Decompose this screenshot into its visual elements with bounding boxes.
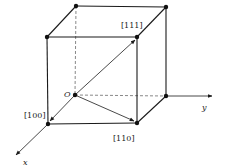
labels: O [111] [100] [110] y x xyxy=(23,21,207,167)
hidden-edge-vertical xyxy=(75,6,76,95)
edge-top-back xyxy=(76,6,166,7)
x-axis xyxy=(16,124,48,155)
direction-vectors xyxy=(50,40,135,121)
vertex-top-front-left xyxy=(45,35,49,39)
edge-top-left xyxy=(47,6,76,37)
label-111: [111] xyxy=(121,21,143,30)
hidden-edge-y xyxy=(75,95,166,96)
label-110: [110] xyxy=(113,134,135,143)
cube-edges xyxy=(47,6,166,124)
vertices xyxy=(45,4,168,126)
y-axis-label: y xyxy=(201,103,207,112)
vector-111 xyxy=(75,40,135,95)
edge-front-left-vertical xyxy=(47,37,48,124)
label-100: [100] xyxy=(24,111,46,120)
origin-label: O xyxy=(64,90,71,99)
vector-110 xyxy=(75,95,134,121)
axes xyxy=(16,96,212,155)
vertex-100 xyxy=(46,122,50,126)
vertex-origin xyxy=(73,93,77,97)
vertex-111 xyxy=(135,35,139,39)
vertex-110 xyxy=(135,121,139,125)
cube-direction-diagram: O [111] [100] [110] y x xyxy=(0,0,225,168)
edge-bottom-right xyxy=(137,96,166,123)
vector-100 xyxy=(50,95,75,121)
vertex-top-back-right xyxy=(164,5,168,9)
edge-bottom-front xyxy=(48,123,137,124)
vertex-010 xyxy=(164,94,168,98)
vertex-top-back-left xyxy=(74,4,78,8)
x-axis-label: x xyxy=(23,158,28,167)
